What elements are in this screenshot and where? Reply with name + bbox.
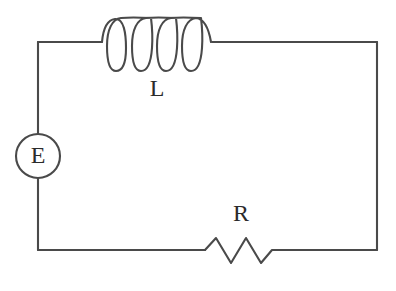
inductor-symbol bbox=[102, 18, 211, 71]
resistor-label: R bbox=[233, 200, 249, 226]
resistor-zigzag-path bbox=[205, 238, 276, 263]
inductor-label: L bbox=[150, 75, 165, 101]
emf-source-label: E bbox=[31, 142, 46, 168]
circuit-schematic-canvas: L E R bbox=[0, 0, 396, 291]
circuit-wires bbox=[38, 42, 377, 250]
resistor-symbol bbox=[205, 238, 276, 263]
inductor-coil-path bbox=[102, 18, 211, 71]
circuit-diagram-figure: L E R bbox=[0, 0, 396, 291]
